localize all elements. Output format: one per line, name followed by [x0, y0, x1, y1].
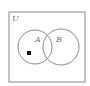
- set-b-label: B: [55, 35, 62, 44]
- universe-rectangle: [9, 12, 85, 82]
- element-marker: [27, 51, 31, 55]
- universe-label: U: [12, 14, 19, 23]
- set-a-label: A: [34, 35, 41, 44]
- venn-diagram: U A B: [0, 0, 90, 86]
